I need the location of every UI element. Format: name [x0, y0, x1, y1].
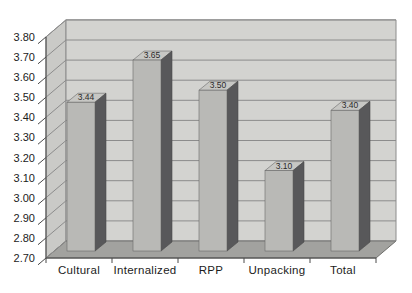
chart-figure: 3.803.703.603.503.403.303.203.103.002.90…: [0, 0, 412, 293]
bar-side-face: [161, 51, 172, 251]
y-tick-mark: [38, 77, 46, 84]
y-tick-label: 3.10: [14, 172, 35, 184]
y-tick-label: 3.80: [14, 31, 35, 43]
x-axis: CulturalInternalizedRPPUnpackingTotal: [46, 258, 376, 276]
bar-rpp: 3.50: [199, 80, 238, 251]
bar-side-face: [359, 101, 370, 251]
y-tick-mark: [38, 37, 46, 44]
y-tick-label: 3.70: [14, 51, 35, 63]
y-tick-mark: [38, 117, 46, 124]
y-tick-label: 3.30: [14, 131, 35, 143]
y-tick-label: 2.70: [14, 252, 35, 264]
y-tick-mark: [38, 137, 46, 144]
bar-front-face: [67, 102, 95, 251]
bar-unpacking: 3.10: [265, 161, 304, 251]
y-tick-label: 2.90: [14, 212, 35, 224]
y-tick-label: 3.50: [14, 91, 35, 103]
chart-side-wall: [46, 20, 66, 258]
bar-front-face: [133, 60, 161, 251]
bar-value-label: 3.50: [210, 80, 227, 90]
y-axis: 3.803.703.603.503.403.303.203.103.002.90…: [14, 31, 46, 265]
y-tick-mark: [38, 258, 46, 265]
y-tick-mark: [38, 158, 46, 165]
y-tick-mark: [38, 178, 46, 185]
bar-cultural: 3.44: [67, 92, 106, 251]
x-axis-label-internalized: Internalized: [113, 264, 176, 276]
bar-value-label: 3.44: [78, 92, 95, 102]
y-tick-label: 2.80: [14, 232, 35, 244]
bar-total: 3.40: [331, 100, 370, 251]
y-tick-label: 3.00: [14, 192, 35, 204]
x-axis-label-total: Total: [330, 264, 356, 276]
y-tick-mark: [38, 218, 46, 225]
bar-side-face: [293, 162, 304, 251]
x-axis-label-rpp: RPP: [199, 264, 224, 276]
y-tick-label: 3.20: [14, 152, 35, 164]
y-tick-mark: [38, 57, 46, 64]
bar-front-face: [265, 171, 293, 251]
bar-front-face: [331, 110, 359, 251]
bar-internalized: 3.65: [133, 50, 172, 251]
x-axis-label-cultural: Cultural: [58, 264, 100, 276]
bar-side-face: [95, 93, 106, 251]
x-axis-label-unpacking: Unpacking: [248, 264, 305, 276]
y-tick-mark: [38, 198, 46, 205]
bar-chart-3d: 3.803.703.603.503.403.303.203.103.002.90…: [0, 0, 412, 293]
bar-front-face: [199, 90, 227, 251]
y-tick-label: 3.60: [14, 71, 35, 83]
y-tick-label: 3.40: [14, 111, 35, 123]
y-tick-mark: [38, 238, 46, 245]
y-tick-mark: [38, 97, 46, 104]
bar-value-label: 3.40: [342, 100, 359, 110]
bar-value-label: 3.65: [144, 50, 161, 60]
bar-side-face: [227, 81, 238, 251]
bar-value-label: 3.10: [276, 161, 293, 171]
